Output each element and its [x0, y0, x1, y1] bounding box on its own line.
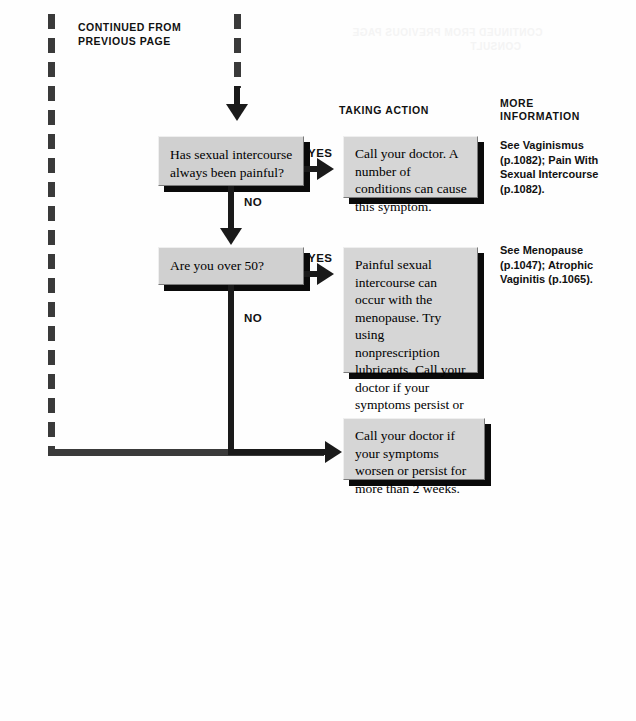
branch-label-no-1: NO	[244, 196, 262, 208]
continued-from-previous-page-note: CONTINUED FROM PREVIOUS PAGE	[78, 20, 258, 48]
page-bleed-through-2: CONSULT	[470, 40, 521, 53]
column-header-taking-action: TAKING ACTION	[339, 104, 429, 117]
arrow-down-into-decision-2	[220, 228, 242, 245]
column-header-more-information: MORE INFORMATION	[500, 97, 580, 123]
branch-label-no-2: NO	[244, 312, 262, 324]
branch-label-yes-2: YES	[308, 252, 333, 264]
dashed-connector-left-vertical	[48, 14, 55, 452]
dashed-connector-top-entry	[234, 14, 241, 88]
more-info-menopause: See Menopause (p.1047); Atrophic Vaginit…	[500, 243, 612, 287]
arrow-down-into-decision-1	[226, 104, 248, 121]
decision-box-pain-always[interactable]: Has sexual intercourse always been painf…	[158, 136, 304, 186]
connector-merge-to-final-action	[228, 449, 332, 455]
page-bleed-through: CONTINUED FROM PREVIOUS PAGE	[352, 26, 543, 39]
action-box-call-doctor-conditions[interactable]: Call your doctor. A number of conditions…	[343, 136, 478, 198]
more-info-vaginismus: See Vaginismus (p.1082); Pain With Sexua…	[500, 138, 612, 196]
connector-no-2	[228, 285, 234, 455]
flowchart-page: CONTINUED FROM PREVIOUS PAGE CONSULT CON…	[0, 0, 636, 721]
branch-label-yes-1: YES	[308, 147, 333, 159]
arrow-right-to-action-3	[325, 441, 342, 463]
arrow-right-to-action-2	[317, 263, 334, 285]
decision-box-over-50[interactable]: Are you over 50?	[158, 247, 304, 285]
connector-no-1	[228, 186, 234, 234]
arrow-right-to-action-1	[317, 158, 334, 180]
action-box-call-doctor-2-weeks[interactable]: Call your doctor if your symptoms worsen…	[343, 418, 485, 480]
action-box-menopause-lubricants[interactable]: Painful sexual intercourse can occur wit…	[343, 247, 478, 373]
